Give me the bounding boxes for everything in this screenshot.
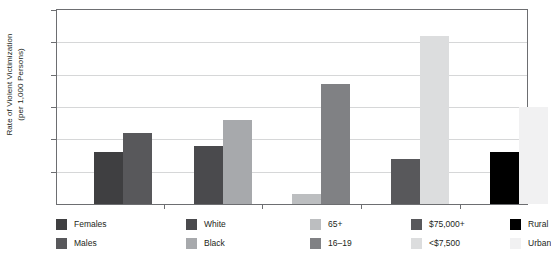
legend-swatch <box>56 238 67 249</box>
legend-label: Females <box>74 220 107 229</box>
y-axis-title-line2: (per 1,000 Persons) <box>15 0 26 180</box>
plot-area: 0102030405060 <box>56 9 528 205</box>
legend-swatch <box>411 238 422 249</box>
x-axis-tick <box>460 204 461 209</box>
legend-swatch <box>310 238 321 249</box>
y-axis-title-line1: Rate of Violent Victimization <box>5 33 14 135</box>
legend-item[interactable]: <$7,500 <box>411 236 460 250</box>
bar <box>223 120 252 204</box>
legend-label: 16–19 <box>328 239 352 248</box>
legend-label: Males <box>74 239 97 248</box>
legend-item[interactable]: Black <box>186 236 225 250</box>
gridline <box>57 107 527 108</box>
bar <box>292 194 321 204</box>
legend-swatch <box>56 219 67 230</box>
legend-swatch <box>510 219 521 230</box>
y-axis-tick <box>51 75 57 76</box>
legend-item[interactable]: 16–19 <box>310 236 352 250</box>
legend-swatch <box>310 219 321 230</box>
chart-legend: FemalesMalesWhiteBlack65+16–19$75,000+<$… <box>56 216 533 256</box>
x-axis-tick <box>361 204 362 209</box>
legend-item[interactable]: 65+ <box>310 217 342 231</box>
y-axis-tick <box>51 42 57 43</box>
legend-item[interactable]: White <box>186 217 226 231</box>
legend-swatch <box>186 219 197 230</box>
legend-label: Rural <box>528 220 548 229</box>
legend-item[interactable]: $75,000+ <box>411 217 465 231</box>
bar <box>194 146 223 204</box>
legend-label: White <box>204 220 226 229</box>
legend-item[interactable]: Rural <box>510 217 548 231</box>
bar <box>321 84 350 204</box>
gridline <box>57 42 527 43</box>
gridline <box>57 75 527 76</box>
legend-swatch <box>411 219 422 230</box>
bar <box>391 159 420 204</box>
bar <box>490 152 519 204</box>
legend-label: 65+ <box>328 220 342 229</box>
legend-label: Urban <box>528 239 551 248</box>
y-axis-tick <box>51 139 57 140</box>
bar <box>94 152 123 204</box>
x-axis-tick <box>262 204 263 209</box>
legend-label: Black <box>204 239 225 248</box>
y-axis-tick <box>51 10 57 11</box>
legend-label: <$7,500 <box>429 239 460 248</box>
x-axis-tick <box>164 204 165 209</box>
bar <box>123 133 152 204</box>
legend-label: $75,000+ <box>429 220 465 229</box>
bar <box>519 107 548 204</box>
legend-swatch <box>510 238 521 249</box>
legend-item[interactable]: Urban <box>510 236 551 250</box>
legend-swatch <box>186 238 197 249</box>
legend-item[interactable]: Males <box>56 236 97 250</box>
y-axis-tick <box>51 172 57 173</box>
y-axis-title: Rate of Violent Victimization (per 1,000… <box>0 0 26 212</box>
y-axis-tick <box>51 107 57 108</box>
bar <box>420 36 449 204</box>
legend-item[interactable]: Females <box>56 217 107 231</box>
